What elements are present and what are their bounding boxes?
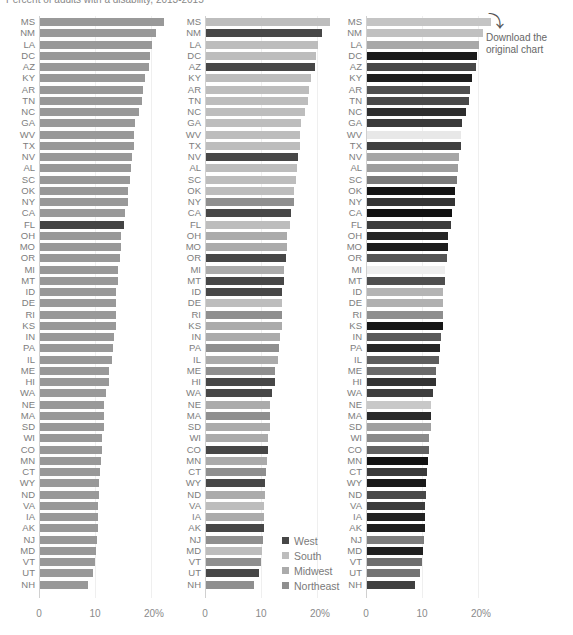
bar-row: OH xyxy=(0,230,573,241)
bar-row: IN xyxy=(0,331,573,342)
state-label: MA xyxy=(332,410,362,421)
state-label: FL xyxy=(332,219,362,230)
bar-row: AK xyxy=(0,522,573,533)
bar xyxy=(367,513,425,521)
bar-row: ND xyxy=(0,489,573,500)
bar-row: VA xyxy=(0,500,573,511)
bar-row: KS xyxy=(0,320,573,331)
state-label: MI xyxy=(332,264,362,275)
bar-row: NV xyxy=(0,151,573,162)
bar-row: CT xyxy=(0,466,573,477)
bar xyxy=(367,131,461,139)
bar xyxy=(367,198,455,206)
bar-row: TN xyxy=(0,95,573,106)
bar xyxy=(367,254,447,262)
state-label: PA xyxy=(332,342,362,353)
bar xyxy=(367,468,427,476)
download-label: Download the original chart xyxy=(486,32,547,55)
legend-item-west: West xyxy=(282,533,340,548)
bar-row: NC xyxy=(0,106,573,117)
x-tick-label: 20% xyxy=(310,608,330,619)
bar-row: DE xyxy=(0,297,573,308)
bar-chart-panel-3: MSNMLADCAZKYARTNNCGAWVTXNVALSCOKNYCAFLOH… xyxy=(0,16,573,598)
state-label: ND xyxy=(332,489,362,500)
bar xyxy=(367,18,491,26)
state-label: WY xyxy=(332,477,362,488)
legend-item-northeast: Northeast xyxy=(282,578,340,593)
state-label: CA xyxy=(332,207,362,218)
bar xyxy=(367,412,431,420)
bar xyxy=(367,344,440,352)
state-label: IL xyxy=(332,354,362,365)
bar-row: ID xyxy=(0,286,573,297)
legend-item-midwest: Midwest xyxy=(282,563,340,578)
bar-row: AR xyxy=(0,84,573,95)
state-label: MN xyxy=(332,455,362,466)
bar-row: KY xyxy=(0,72,573,83)
bar-row: MI xyxy=(0,264,573,275)
bar-row: AZ xyxy=(0,61,573,72)
bar-row: TX xyxy=(0,140,573,151)
state-label: CT xyxy=(332,466,362,477)
state-label: IN xyxy=(332,331,362,342)
bar xyxy=(367,401,431,409)
state-label: CO xyxy=(332,444,362,455)
state-label: TN xyxy=(332,95,362,106)
bar-row: MN xyxy=(0,455,573,466)
bar xyxy=(367,164,458,172)
bar-row: WY xyxy=(0,477,573,488)
bar xyxy=(367,389,433,397)
x-tick-label: 0 xyxy=(363,608,369,619)
bar-row: MA xyxy=(0,410,573,421)
state-label: SD xyxy=(332,421,362,432)
state-label: AR xyxy=(332,84,362,95)
bar xyxy=(367,221,451,229)
bar xyxy=(367,446,429,454)
state-label: LA xyxy=(332,39,362,50)
state-label: MT xyxy=(332,275,362,286)
bar-row: WA xyxy=(0,387,573,398)
bar xyxy=(367,266,445,274)
bar xyxy=(367,581,415,589)
state-label: OR xyxy=(332,252,362,263)
bar xyxy=(367,277,445,285)
state-label: GA xyxy=(332,117,362,128)
state-label: AK xyxy=(332,522,362,533)
bar xyxy=(367,502,425,510)
bar-row: GA xyxy=(0,117,573,128)
bar xyxy=(367,524,425,532)
state-label: NV xyxy=(332,151,362,162)
bar xyxy=(367,356,439,364)
bar xyxy=(367,491,426,499)
bar-row: OK xyxy=(0,185,573,196)
legend-swatch-west xyxy=(282,537,289,544)
bar xyxy=(367,97,469,105)
x-tick-label: 0 xyxy=(36,608,42,619)
legend-swatch-midwest xyxy=(282,567,289,574)
bar-row: IA xyxy=(0,511,573,522)
bar-row: HI xyxy=(0,376,573,387)
state-label: NE xyxy=(332,399,362,410)
bar xyxy=(367,209,452,217)
bar xyxy=(367,333,441,341)
bar xyxy=(367,29,483,37)
state-label: OK xyxy=(332,185,362,196)
bar-row: PA xyxy=(0,342,573,353)
x-tick-label: 20% xyxy=(471,608,491,619)
download-chart-link[interactable]: ⤵ Download the original chart xyxy=(486,16,571,56)
bar-row: ME xyxy=(0,365,573,376)
bar-row: SD xyxy=(0,421,573,432)
bar xyxy=(367,119,462,127)
state-label: ID xyxy=(332,286,362,297)
region-legend: West South Midwest Northeast xyxy=(282,533,340,593)
state-label: NC xyxy=(332,106,362,117)
bar-row: MT xyxy=(0,275,573,286)
bar xyxy=(367,434,429,442)
state-label: IA xyxy=(332,511,362,522)
bar xyxy=(367,378,436,386)
x-tick-label: 10 xyxy=(255,608,266,619)
bar-row: CO xyxy=(0,444,573,455)
bar xyxy=(367,367,436,375)
bar xyxy=(367,108,466,116)
legend-item-south: South xyxy=(282,548,340,563)
